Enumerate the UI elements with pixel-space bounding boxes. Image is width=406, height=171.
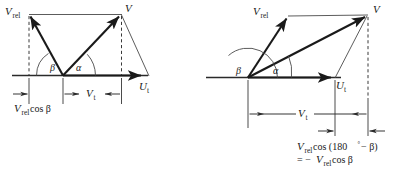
right-ut-label: U t (336, 79, 347, 94)
right-ut-label-sub: t (344, 85, 347, 94)
left-beta-label: β (49, 62, 55, 73)
right-vt-dim-label: V t (296, 105, 314, 122)
left-vrel-label: V rel (5, 5, 20, 20)
left-alpha-arc (87, 54, 95, 75)
figure-root: β α V rel V U t V (0, 0, 406, 171)
velocity-triangles-figure: β α V rel V U t V (0, 0, 406, 171)
left-alpha-label: α (76, 62, 82, 73)
right-v-vector (248, 17, 365, 78)
left-vt-dim-sub: t (94, 93, 97, 102)
right-alpha-arc (288, 56, 291, 78)
left-ut-label-sub: t (147, 86, 150, 95)
right-vrel-label: V rel (253, 5, 268, 20)
left-beta-arc (37, 53, 49, 75)
right-vrel-label-sub: rel (261, 11, 269, 20)
left-v-vector (63, 17, 119, 76)
right-vrelcos-dim-label-line2: = − V rel cos β (297, 153, 353, 168)
left-v-to-ut-line (122, 15, 150, 76)
left-vrelcos-dim-label: V rel cos β (14, 102, 51, 117)
left-vrelcos-dim-tail: cos β (30, 103, 51, 114)
right-vrelcos-l2-a: = − (297, 154, 311, 165)
right-vrelcos-l1-b: cos (180 (313, 141, 347, 153)
left-vrel-label-sub: rel (13, 11, 21, 20)
right-vrelcos-l1-c: − β) (361, 141, 378, 153)
right-vrelcos-dim-label-line1: V rel cos (180 ° − β) (297, 140, 378, 155)
left-vt-dim-label: V t (86, 87, 97, 102)
left-v-label: V (125, 2, 133, 14)
left-diagram-group: β α V rel V U t V (5, 2, 150, 117)
left-vrel-vector (31, 17, 64, 76)
right-v-label: V (373, 3, 381, 15)
right-top-connector-line (288, 15, 368, 16)
right-vrelcos-l2-c: cos β (332, 154, 353, 165)
right-beta-label: β (235, 65, 241, 76)
right-vrelcos-l2-sub: rel (324, 159, 332, 168)
right-diagram-group: β α V rel V U t (206, 3, 385, 168)
left-ut-label: U t (139, 80, 150, 95)
left-vrelcos-dim-sub: rel (22, 108, 30, 117)
right-alpha-label: α (273, 65, 279, 76)
